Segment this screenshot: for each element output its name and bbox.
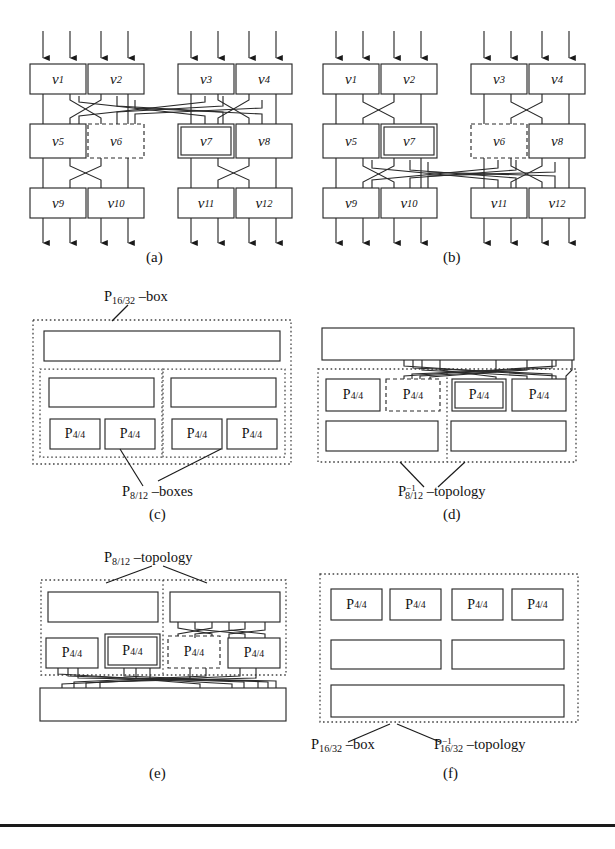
p44-cell-e-2 bbox=[168, 636, 220, 668]
p44-cell-d-2-inner bbox=[455, 382, 503, 408]
node-box-v11-b bbox=[471, 188, 527, 218]
p44-cell-c-0 bbox=[50, 419, 100, 449]
p8-12-box-right-c bbox=[163, 369, 285, 457]
p44-cell-d-2-outer bbox=[452, 379, 506, 411]
node-box-v6-b bbox=[471, 124, 527, 158]
node-box-v3 bbox=[178, 64, 234, 94]
leader-p16-32-c bbox=[112, 305, 128, 321]
figure-svg bbox=[0, 0, 615, 849]
node-box-v2-b bbox=[381, 64, 437, 94]
stage-bar-mid-left-f bbox=[331, 640, 441, 669]
panel-a-input-arrows bbox=[43, 31, 276, 58]
panel-c-graph bbox=[33, 305, 291, 486]
leader-p16-32-topology-f bbox=[397, 724, 440, 742]
p44-cell-f-3 bbox=[512, 589, 563, 620]
stage-bar-mid-right-c bbox=[171, 378, 276, 407]
leader-p8-12-left-c bbox=[120, 449, 143, 486]
node-box-v7-inner bbox=[181, 127, 231, 155]
stage-bar-up-left-e bbox=[48, 592, 158, 622]
leader-p8-12-topology-left-e bbox=[106, 566, 152, 583]
stage-bar-bottom-e bbox=[40, 688, 286, 721]
node-box-v8-b bbox=[529, 124, 585, 158]
node-box-v4-b bbox=[529, 64, 585, 94]
p16-32-inv-outer-f bbox=[320, 574, 578, 722]
node-box-v11 bbox=[178, 188, 234, 218]
p44-cell-d-0 bbox=[326, 379, 380, 411]
panel-b-links-r0r1 bbox=[336, 94, 569, 124]
p44-cell-c-3 bbox=[227, 419, 277, 449]
panel-d-crossfan bbox=[404, 360, 572, 379]
leader-p8-12-inv-right-d bbox=[438, 462, 465, 487]
panel-a-output-arrows bbox=[43, 218, 276, 243]
node-box-v10 bbox=[88, 188, 144, 218]
stage-bar-top-d bbox=[322, 328, 574, 360]
p16-32-outer-box-c bbox=[33, 320, 291, 464]
panel-a-links-r0r1 bbox=[43, 94, 276, 124]
node-box-v6 bbox=[88, 124, 144, 158]
node-box-v7-b-outer bbox=[381, 124, 437, 158]
node-box-v2 bbox=[88, 64, 144, 94]
node-box-v9 bbox=[30, 188, 86, 218]
p44-cell-e-0 bbox=[46, 638, 98, 668]
p44-cell-e-1-outer bbox=[105, 634, 160, 668]
node-box-v5-b bbox=[323, 124, 379, 158]
node-box-v12-b bbox=[529, 188, 585, 218]
panel-e-crossfan bbox=[58, 668, 276, 688]
stage-bar-low-right-d bbox=[451, 421, 566, 451]
p44-cell-c-2 bbox=[172, 419, 222, 449]
panel-d-graph bbox=[318, 328, 576, 487]
panel-b-output-arrows bbox=[336, 218, 569, 243]
p44-cell-f-0 bbox=[331, 589, 382, 620]
p44-cell-f-1 bbox=[390, 589, 441, 620]
p44-cell-d-3 bbox=[512, 379, 566, 411]
node-box-v9-b bbox=[323, 188, 379, 218]
node-box-v10-b bbox=[381, 188, 437, 218]
node-box-v5 bbox=[30, 124, 86, 158]
p44-cell-e-1-inner bbox=[108, 637, 157, 665]
page-horizontal-rule bbox=[0, 824, 615, 827]
node-box-v12 bbox=[236, 188, 292, 218]
panel-b-input-arrows bbox=[336, 31, 569, 58]
leader-p8-12-inv-left-d bbox=[400, 462, 424, 487]
node-box-v7-b-inner bbox=[384, 127, 434, 155]
node-box-v1-b bbox=[323, 64, 379, 94]
p44-cell-d-1 bbox=[386, 379, 440, 411]
panel-e-graph bbox=[40, 566, 286, 721]
leader-p8-12-right-c bbox=[158, 449, 221, 481]
stage-bar-up-right-e bbox=[170, 592, 280, 622]
p44-cell-f-2 bbox=[452, 589, 503, 620]
node-box-v4 bbox=[236, 64, 292, 94]
panel-f-graph bbox=[320, 574, 578, 742]
panel-b-graph bbox=[323, 31, 585, 243]
node-box-v7-outer bbox=[178, 124, 234, 158]
leader-p16-32-box-f bbox=[348, 724, 390, 742]
panel-a-links-r1r2 bbox=[43, 158, 276, 188]
stage-bar-bottom-f bbox=[331, 685, 564, 717]
p8-12-box-left-c bbox=[40, 369, 162, 457]
stage-bar-mid-left-c bbox=[49, 378, 154, 407]
stage-bar-top-c bbox=[44, 331, 280, 361]
p44-cell-c-1 bbox=[105, 419, 155, 449]
figure-canvas: v1 v2 v3 v4 v5 v6 v7 v8 v9 v10 v11 v12 v… bbox=[0, 0, 615, 849]
panel-a-graph bbox=[30, 31, 292, 243]
stage-bar-low-left-d bbox=[326, 421, 438, 451]
stage-bar-mid-right-f bbox=[452, 640, 564, 669]
node-box-v1 bbox=[30, 64, 86, 94]
node-box-v8 bbox=[236, 124, 292, 158]
node-box-v3-b bbox=[471, 64, 527, 94]
p44-cell-e-3 bbox=[228, 638, 280, 668]
panel-b-links-r1r2 bbox=[336, 158, 569, 188]
